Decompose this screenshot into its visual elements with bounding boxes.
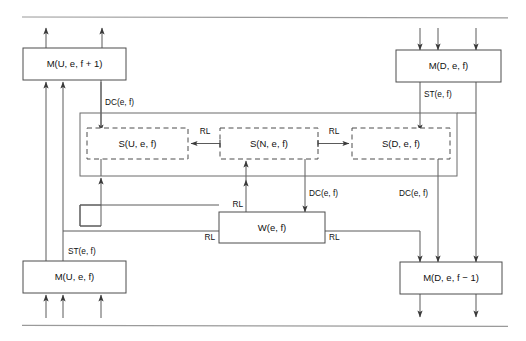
edge-label-dc-center: DC(e, f) (309, 188, 338, 198)
bottom-rule (22, 325, 508, 326)
box-w[interactable]: W(e, f) (219, 212, 325, 243)
edge-label-st-right-top: ST(e, f) (424, 89, 452, 99)
box-label-mu-f: M(U, e, f) (55, 271, 95, 282)
box-label-mu-f-plus-1: M(U, e, f + 1) (47, 58, 103, 69)
box-sn[interactable]: S(N, e, f) (220, 128, 318, 159)
box-sd[interactable]: S(D, e, f) (352, 128, 450, 159)
box-label-sd: S(D, e, f) (382, 138, 420, 149)
edge-label-dc-top-left: DC(e, f) (105, 97, 134, 107)
edge-label-rl-w-left: RL (204, 232, 215, 242)
diagram-page: M(U, e, f + 1) M(D, e, f) S(U, e, f) S(N… (0, 0, 526, 341)
block-diagram-svg: M(U, e, f + 1) M(D, e, f) S(U, e, f) S(N… (0, 0, 526, 341)
box-mu-f[interactable]: M(U, e, f) (23, 261, 126, 293)
edge-label-rl-sn-sd: RL (329, 126, 340, 136)
box-label-su: S(U, e, f) (118, 138, 156, 149)
edge-bus-y205-to-up (80, 205, 101, 226)
edge-bus-hidden (80, 205, 101, 226)
box-label-md-f-minus-1: M(D, e, f − 1) (423, 272, 479, 283)
box-md-f-minus-1[interactable]: M(D, e, f − 1) (400, 262, 502, 294)
edge-label-dc-right: DC(e, f) (399, 188, 428, 198)
box-md-f[interactable]: M(D, e, f) (396, 50, 501, 82)
top-rule (22, 17, 508, 18)
edge-label-st-left-bottom: ST(e, f) (68, 246, 96, 256)
box-label-sn: S(N, e, f) (250, 138, 288, 149)
box-label-md-f: M(D, e, f) (429, 60, 469, 71)
edge-label-rl-su-sn: RL (200, 126, 211, 136)
edge-label-rl-w-right: RL (329, 232, 340, 242)
box-mu-f-plus-1[interactable]: M(U, e, f + 1) (23, 48, 126, 80)
box-label-w: W(e, f) (258, 222, 287, 233)
edge-label-rl-w-top: RL (232, 199, 243, 209)
box-su[interactable]: S(U, e, f) (87, 128, 188, 159)
